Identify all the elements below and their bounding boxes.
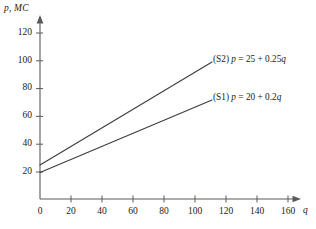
series-label-s1-prefix: (S1) (213, 92, 229, 102)
y-tick-label-20: 20 (6, 166, 32, 176)
chart-canvas (0, 0, 316, 229)
y-tick-label-60: 60 (6, 110, 32, 120)
x-axis-arrow-icon (293, 196, 302, 202)
x-tick-label-40: 40 (90, 206, 114, 216)
y-axis-arrow-icon (37, 15, 44, 24)
y-axis-title: p, MC (4, 3, 29, 13)
supply-curve-figure: p, MC q 120 100 80 60 40 20 0 20 40 60 8… (0, 0, 316, 229)
x-tick-label-100: 100 (183, 206, 207, 216)
x-tick-label-80: 80 (152, 206, 176, 216)
series-label-s2: (S2) p = 25 + 0.25q (213, 54, 286, 64)
series-line-s1 (40, 100, 212, 173)
x-tick-label-60: 60 (121, 206, 145, 216)
x-tick-label-160: 160 (276, 206, 300, 216)
series-label-s1-varq: q (277, 92, 282, 102)
y-tick-label-100: 100 (6, 55, 32, 65)
x-tick-label-0: 0 (28, 206, 52, 216)
x-tick-label-20: 20 (59, 206, 83, 216)
x-axis-title: q (303, 205, 308, 215)
x-tick-label-140: 140 (245, 206, 269, 216)
series-label-s1-eq: = 20 + 0.2 (238, 92, 276, 102)
series-label-s2-var: p (231, 54, 236, 64)
series-label-s2-prefix: (S2) (213, 54, 229, 64)
y-tick-label-80: 80 (6, 82, 32, 92)
series-label-s1-var: p (231, 92, 236, 102)
series-label-s2-varq: q (281, 54, 286, 64)
series-line-s2 (40, 62, 212, 165)
y-tick-label-120: 120 (6, 27, 32, 37)
series-label-s1: (S1) p = 20 + 0.2q (213, 92, 281, 102)
x-tick-label-120: 120 (214, 206, 238, 216)
series-label-s2-eq: = 25 + 0.25 (238, 54, 281, 64)
y-tick-label-40: 40 (6, 138, 32, 148)
